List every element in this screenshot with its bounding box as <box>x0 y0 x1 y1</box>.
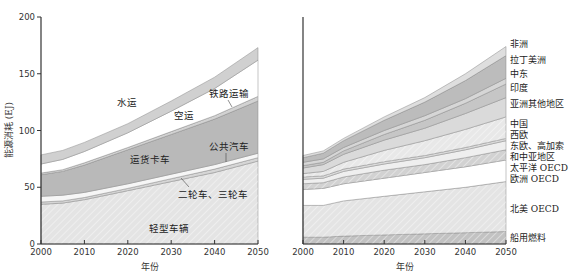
right-x-axis-label: 年份 <box>396 261 414 272</box>
x-tick-label: 2050 <box>247 247 269 257</box>
legend-label: 船用燃料 <box>510 232 546 243</box>
y-tick-label: 200 <box>19 12 35 22</box>
charts-canvas: 050100150200 200020102020203020402050 能源… <box>0 0 583 278</box>
x-tick-label: 2050 <box>495 247 517 257</box>
x-tick-label: 2030 <box>160 247 182 257</box>
right-legend: 非洲拉丁美洲中东印度亚洲其他地区中国西欧东欧、高加索和中亚地区太平洋 OECD欧… <box>510 38 568 243</box>
label-ldv: 轻型车辆 <box>149 223 189 234</box>
label-rail: 铁路运输 <box>209 88 249 99</box>
legend-label: 非洲 <box>510 38 528 49</box>
right-stacked-areas <box>303 47 506 245</box>
label-water: 水运 <box>117 97 137 108</box>
x-tick-label: 2000 <box>292 247 314 257</box>
y-tick-label: 100 <box>19 126 35 136</box>
left-x-axis-label: 年份 <box>141 261 159 272</box>
x-tick-label: 2010 <box>74 247 96 257</box>
label-air: 空运 <box>174 110 194 121</box>
legend-label: 太平洋 OECD <box>510 162 568 173</box>
left-y-axis-label: 能源消耗 (EJ) <box>3 102 14 158</box>
legend-label: 中东 <box>510 68 528 79</box>
legend-label: 中国 <box>510 118 528 129</box>
left-chart-transport-mode: 050100150200 200020102020203020402050 能源… <box>3 12 269 272</box>
x-tick-label: 2020 <box>117 247 139 257</box>
x-tick-label: 2030 <box>414 247 436 257</box>
y-tick-label: 150 <box>19 69 35 79</box>
y-tick-label: 50 <box>24 182 35 192</box>
legend-label: 亚洲其他地区 <box>510 98 564 109</box>
label-bus: 公共汽车 <box>209 141 249 152</box>
x-tick-label: 2040 <box>455 247 477 257</box>
legend-label: 欧洲 OECD <box>510 173 559 184</box>
x-tick-label: 2000 <box>30 247 52 257</box>
label-two-three-wheeler: 二轮车、三轮车 <box>178 189 248 200</box>
right-chart-region: 200020102020203020402050 年份 非洲拉丁美洲中东印度亚洲… <box>292 17 568 272</box>
figure: 050100150200 200020102020203020402050 能源… <box>0 0 583 278</box>
x-tick-label: 2020 <box>373 247 395 257</box>
left-y-ticks: 050100150200 <box>19 12 41 249</box>
legend-label: 拉丁美洲 <box>510 54 546 65</box>
x-tick-label: 2040 <box>204 247 226 257</box>
label-truck: 运货卡车 <box>130 154 170 165</box>
legend-label: 东欧、高加索 <box>510 140 564 151</box>
legend-label: 印度 <box>510 82 528 93</box>
x-tick-label: 2010 <box>333 247 355 257</box>
legend-label: 北美 OECD <box>510 203 559 214</box>
legend-label: 西欧 <box>510 129 528 140</box>
legend-label: 和中亚地区 <box>510 151 555 162</box>
